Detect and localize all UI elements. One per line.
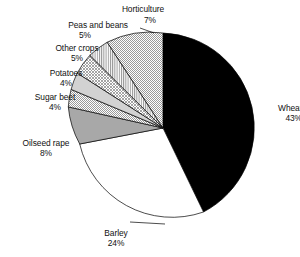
slice-label-horticulture-pct: 7% <box>128 15 156 25</box>
slice-value-other-crops: 5% <box>34 53 120 63</box>
slice-label-oilseed-rape: Oilseed rape <box>0 138 92 148</box>
slice-value-horticulture: 7% <box>128 15 156 25</box>
slice-label-peas-and-beans: Peas and beans <box>42 20 128 30</box>
slice-value-oilseed-rape: 8% <box>0 148 92 158</box>
slice-label-other-crops-name: Other crops <box>34 43 120 53</box>
leader-line-barley <box>130 222 165 224</box>
slice-label-barley-pct: 24% <box>88 238 144 248</box>
slice-value-wheat: 43% <box>262 113 300 123</box>
slice-label-peas-and-beans-pct: 5% <box>42 30 128 40</box>
slice-label-oilseed-rape-pct: 8% <box>0 148 92 158</box>
slice-label-potatoes-name: Potatoes <box>26 68 106 78</box>
slice-label-potatoes-pct: 4% <box>26 78 106 88</box>
slice-label-peas-and-beans-name: Peas and beans <box>42 20 128 30</box>
slice-label-horticulture: Horticulture <box>100 4 186 14</box>
slice-label-sugar-beet: Sugar beet <box>10 92 100 102</box>
slice-label-barley-name: Barley <box>88 228 144 238</box>
slice-label-oilseed-rape-name: Oilseed rape <box>0 138 92 148</box>
slice-label-horticulture-name: Horticulture <box>100 4 186 14</box>
slice-label-wheat: Wheat <box>262 103 300 113</box>
slice-label-potatoes: Potatoes <box>26 68 106 78</box>
slice-label-sugar-beet-name: Sugar beet <box>10 92 100 102</box>
slice-label-sugar-beet-pct: 4% <box>10 102 100 112</box>
slice-label-other-crops: Other crops <box>34 43 120 53</box>
slice-label-barley: Barley <box>88 228 144 238</box>
slice-label-wheat-name: Wheat <box>262 103 300 113</box>
pie-chart: Horticulture 7% Peas and beans 5% Other … <box>0 0 300 257</box>
slice-value-potatoes: 4% <box>26 78 106 88</box>
slice-label-other-crops-pct: 5% <box>34 53 120 63</box>
slice-label-wheat-pct: 43% <box>262 113 300 123</box>
slice-value-peas-and-beans: 5% <box>42 30 128 40</box>
slice-value-sugar-beet: 4% <box>10 102 100 112</box>
slice-value-barley: 24% <box>88 238 144 248</box>
